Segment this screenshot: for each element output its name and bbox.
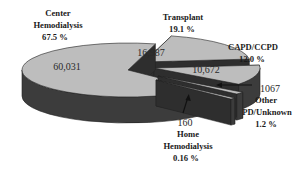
pct-other: 1.2 % [255,119,276,129]
pct-transplant: 19.1 % [169,24,195,34]
value-center-hemodialysis: 60,031 [53,61,81,72]
label-other-line2: PD/Unknown [242,107,292,117]
label-home-line1: Home [177,129,199,139]
pie-chart: Center Hemodialysis 67.5 % 60,031 Transp… [0,0,306,170]
label-center-hemodialysis-line2: Hemodialysis [33,20,83,30]
label-other-line1: Other [255,95,277,105]
pct-home: 0.16 % [173,153,199,163]
slice-side-wall [231,98,235,125]
value-capd-ccpd: 10,672 [192,64,220,75]
label-capd-ccpd: CAPD/CCPD [228,42,278,52]
label-transplant: Transplant [163,12,204,22]
value-home: 160 [178,117,193,128]
pct-center-hemodialysis: 67.5 % [42,32,68,42]
value-transplant: 16,987 [137,47,165,58]
pct-capd-ccpd: 12.0 % [239,54,265,64]
label-center-hemodialysis-line1: Center [45,8,70,18]
value-other: 1067 [260,83,280,94]
label-home-line2: Hemodialysis [163,141,213,151]
